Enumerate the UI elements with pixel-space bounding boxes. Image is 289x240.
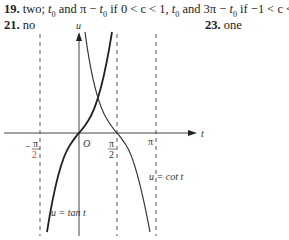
tan-cot-graph: t u π 2 − O π 2 π u = cot t u = tan t xyxy=(0,0,289,240)
asymptote-lines xyxy=(40,34,156,236)
tick-half-pi-numerator: π xyxy=(109,138,114,149)
u-axis-arrow-icon xyxy=(76,32,82,41)
u-axis-label: u xyxy=(76,20,81,31)
tan-curve-label: u = tan t xyxy=(51,207,86,218)
origin-label: O xyxy=(83,138,90,149)
tick-pi: π xyxy=(148,136,153,147)
t-axis-label: t xyxy=(201,128,204,139)
tick-neg-half-pi-denominator: 2 xyxy=(32,149,37,160)
cot-curve-label: u = cot t xyxy=(149,171,183,182)
tick-half-pi-denominator: 2 xyxy=(109,149,114,160)
t-axis-arrow-icon xyxy=(188,130,197,136)
tick-neg-half-pi-numerator: π xyxy=(33,138,38,149)
tick-neg-sign: − xyxy=(25,141,31,152)
